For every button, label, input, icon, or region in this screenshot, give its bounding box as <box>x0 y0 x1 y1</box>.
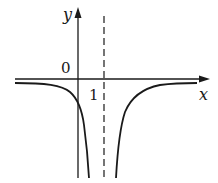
curve-right-branch <box>116 83 197 178</box>
function-graph: y x 0 1 <box>0 0 218 183</box>
x-axis-label: x <box>199 85 208 104</box>
y-axis-label: y <box>62 5 73 24</box>
y-axis-arrow-icon <box>75 7 82 18</box>
origin-label: 0 <box>61 59 71 77</box>
x-axis-arrow-icon <box>199 76 210 83</box>
tick-label-1: 1 <box>89 86 99 104</box>
